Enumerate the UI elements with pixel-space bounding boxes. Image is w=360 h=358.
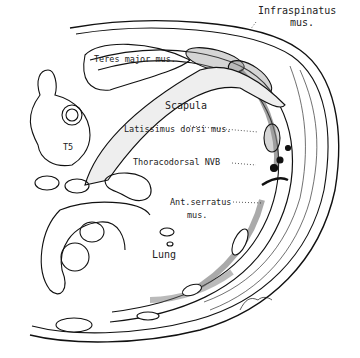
label-latissimus-dorsi: Latissimus dorsi mus. [124, 125, 231, 134]
label-infraspinatus: Infraspinatus [258, 6, 336, 16]
label-teres-major: Teres major mus. [94, 55, 176, 64]
label-ant-serratus: Ant.serratus [170, 198, 231, 207]
cross-section-drawing [0, 0, 360, 358]
label-infraspinatus-mus: mus. [290, 18, 314, 28]
label-ant-serratus-mus: mus. [187, 211, 207, 220]
anatomy-figure: Infraspinatus mus. Teres major mus. Scap… [0, 0, 360, 358]
label-t5: T5 [63, 143, 73, 152]
label-thoracodorsal-nvb: Thoracodorsal NVB [133, 158, 220, 167]
label-lung: Lung [152, 250, 176, 260]
label-scapula: Scapula [165, 101, 207, 111]
